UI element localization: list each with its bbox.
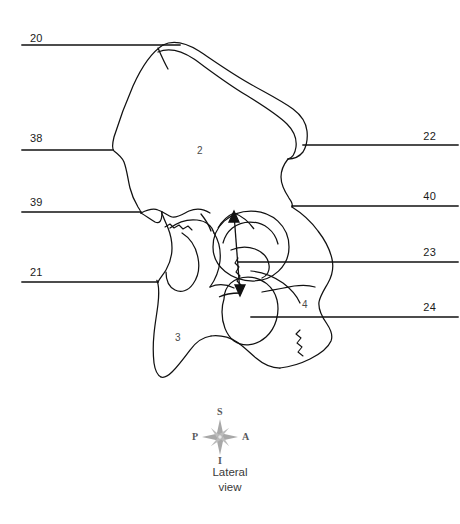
leader-lines-left — [22, 45, 180, 282]
inner-label-4: 4 — [302, 299, 308, 310]
ischial-spine-jag — [141, 212, 162, 223]
posterior-suture-jags — [296, 330, 303, 356]
compass-rose-icon — [202, 419, 238, 455]
ischial-tuberosity-contour — [211, 336, 280, 368]
leader-label-38: 38 — [30, 132, 43, 144]
compass-label-superior: S — [217, 406, 223, 417]
leader-label-21: 21 — [30, 266, 43, 278]
leader-label-24: 24 — [423, 301, 436, 313]
anterior-inferior-spine-contour — [158, 212, 172, 282]
leader-label-20: 20 — [30, 32, 43, 44]
pubic-body-contour — [210, 285, 234, 288]
ilium-outer-contour — [163, 43, 307, 159]
greater-sciatic-notch — [141, 209, 210, 217]
leader-label-23: 23 — [423, 246, 436, 258]
compass-label-anterior: A — [242, 431, 249, 442]
inner-label-3: 3 — [175, 332, 181, 343]
compass-label-inferior: I — [218, 455, 222, 466]
inferior-pubic-ramus — [161, 336, 211, 377]
leader-label-40: 40 — [423, 190, 436, 202]
view-caption-line2: view — [0, 481, 460, 493]
inner-label-2: 2 — [197, 145, 203, 156]
pubis-anterior-contour — [153, 280, 161, 377]
iliac-crest-inner-line — [158, 50, 296, 159]
figure-page: 20 38 39 21 22 40 23 24 2 3 4 S I P A La… — [0, 0, 460, 524]
acetabular-depth-arrow — [218, 211, 254, 297]
compass-star-center — [218, 435, 222, 439]
depth-arrow-lower-wing — [219, 293, 240, 297]
view-caption-line1: Lateral — [0, 466, 460, 478]
hip-bone-diagram — [0, 0, 460, 524]
leader-label-39: 39 — [30, 196, 43, 208]
depth-arrow-head-bottom — [235, 285, 245, 296]
ilium-anterior-border — [113, 45, 164, 213]
ischial-ramus-ridge — [251, 271, 300, 303]
iliac-tubercle-tick — [158, 48, 168, 69]
compass-label-posterior: P — [192, 431, 198, 442]
bone-outline-group — [113, 43, 333, 378]
ilium-posterior-border — [281, 159, 292, 207]
obturator-foramen — [222, 277, 278, 345]
leader-label-22: 22 — [423, 130, 436, 142]
inner-ilium-curve — [166, 233, 199, 291]
